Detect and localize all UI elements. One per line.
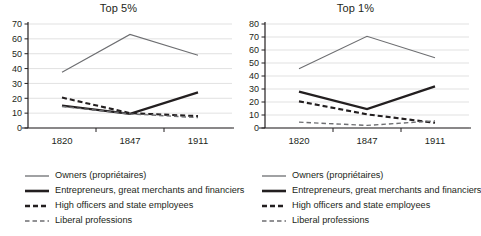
y-axis-tick-label: 20: [249, 97, 259, 107]
legend-label-liberal-professions: Liberal professions: [292, 215, 369, 226]
line-chart-left: 010203040506070182018471911: [0, 18, 237, 158]
legend-key-solid-thick-icon: [261, 185, 287, 197]
legend-label-entrepreneurs: Entrepreneurs, great merchants and finan…: [292, 185, 481, 196]
legend-key-solid-thin-icon: [261, 170, 287, 182]
legend-item-entrepreneurs: Entrepreneurs, great merchants and finan…: [261, 183, 474, 198]
legend-item-entrepreneurs: Entrepreneurs, great merchants and finan…: [24, 183, 237, 198]
series-line-3: [299, 121, 435, 126]
chart-panel-top5: Top 5% 010203040506070182018471911 Owner…: [0, 0, 237, 236]
x-axis-tick-label: 1911: [188, 135, 208, 146]
legend-left: Owners (propriétaires) Entrepreneurs, gr…: [24, 168, 237, 228]
legend-item-high-officers: High officers and state employees: [261, 198, 474, 213]
y-axis-tick-label: 0: [17, 123, 22, 133]
legend-item-high-officers: High officers and state employees: [24, 198, 237, 213]
x-axis-tick-label: 1820: [51, 135, 72, 146]
line-chart-right: 01020304050607080182018471911: [237, 18, 474, 158]
x-axis-tick-label: 1847: [119, 135, 140, 146]
y-axis-tick-label: 20: [12, 94, 22, 104]
legend-label-entrepreneurs: Entrepreneurs, great merchants and finan…: [55, 185, 244, 196]
legend-key-solid-thick-icon: [24, 185, 50, 197]
legend-item-liberal-professions: Liberal professions: [24, 213, 237, 228]
legend-item-owners: Owners (propriétaires): [24, 168, 237, 183]
legend-label-owners: Owners (propriétaires): [55, 170, 146, 181]
chart-panel-top1: Top 1% 01020304050607080182018471911 Own…: [237, 0, 474, 236]
legend-item-liberal-professions: Liberal professions: [261, 213, 474, 228]
plot-area-right: 01020304050607080182018471911: [237, 18, 474, 158]
legend-label-high-officers: High officers and state employees: [292, 200, 430, 211]
legend-key-solid-thin-icon: [24, 170, 50, 182]
plot-area-left: 010203040506070182018471911: [0, 18, 237, 158]
legend-key-dashed-thin-icon: [24, 215, 50, 227]
legend-label-liberal-professions: Liberal professions: [55, 215, 132, 226]
y-axis-tick-label: 30: [12, 79, 22, 89]
series-line-0: [299, 36, 435, 69]
y-axis-tick-label: 70: [249, 32, 259, 42]
y-axis-tick-label: 50: [12, 49, 22, 59]
x-axis-tick-label: 1911: [425, 135, 445, 146]
y-axis-tick-label: 30: [249, 84, 259, 94]
y-axis-tick-label: 0: [254, 123, 259, 133]
x-axis-tick-label: 1820: [288, 135, 309, 146]
y-axis-tick-label: 70: [12, 19, 22, 29]
legend-key-dashed-thick-icon: [24, 200, 50, 212]
y-axis-tick-label: 50: [249, 58, 259, 68]
y-axis-tick-label: 80: [249, 19, 259, 29]
chart-title-left: Top 5%: [0, 2, 237, 14]
chart-title-right: Top 1%: [237, 2, 474, 14]
y-axis-tick-label: 60: [249, 45, 259, 55]
y-axis-tick-label: 40: [12, 64, 22, 74]
y-axis-tick-label: 10: [249, 110, 259, 120]
legend-key-dashed-thin-icon: [261, 215, 287, 227]
y-axis-tick-label: 40: [249, 71, 259, 81]
series-line-1: [62, 92, 198, 114]
y-axis-tick-label: 60: [12, 34, 22, 44]
x-axis-tick-label: 1847: [356, 135, 377, 146]
legend-label-high-officers: High officers and state employees: [55, 200, 193, 211]
series-line-2: [299, 101, 435, 122]
legend-item-owners: Owners (propriétaires): [261, 168, 474, 183]
legend-label-owners: Owners (propriétaires): [292, 170, 383, 181]
legend-right: Owners (propriétaires) Entrepreneurs, gr…: [261, 168, 474, 228]
legend-key-dashed-thick-icon: [261, 200, 287, 212]
y-axis-tick-label: 10: [12, 108, 22, 118]
